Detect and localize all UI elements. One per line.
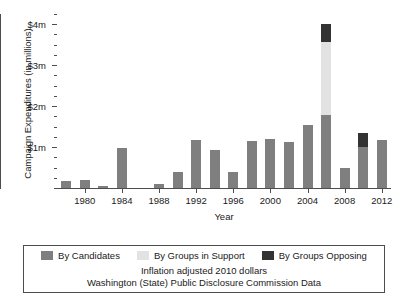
bar-group (228, 172, 238, 188)
bar-segment (61, 181, 71, 188)
bars-layer (57, 14, 391, 188)
y-axis-tick-label: $4m (28, 19, 46, 30)
x-axis-tick-label: 1992 (186, 195, 207, 206)
bar-segment (247, 141, 257, 188)
bar-segment (321, 42, 331, 115)
x-axis-tick-label: 1988 (148, 195, 169, 206)
x-axis-tick (345, 189, 346, 193)
bar-group (61, 181, 71, 188)
bar-segment (117, 148, 127, 188)
legend: By CandidatesBy Groups in SupportBy Grou… (24, 250, 384, 261)
bar-group (340, 168, 350, 188)
legend-item: By Groups Opposing (262, 250, 367, 261)
bar-group (303, 125, 313, 188)
bar-group (358, 133, 368, 188)
legend-and-caption-box: By CandidatesBy Groups in SupportBy Grou… (23, 245, 385, 293)
x-axis-tick-label: 2012 (371, 195, 392, 206)
caption-line-1: Inflation adjusted 2010 dollars (24, 265, 384, 277)
bar-segment (210, 150, 220, 188)
bar-segment (358, 133, 368, 147)
legend-item: By Candidates (41, 250, 120, 261)
bar-group (80, 180, 90, 188)
bar-group (247, 141, 257, 188)
legend-item-label: By Groups in Support (154, 250, 245, 261)
bar-group (154, 184, 164, 188)
bar-segment (303, 125, 313, 188)
bar-group (173, 172, 183, 188)
legend-item-label: By Candidates (58, 250, 120, 261)
bar-segment (377, 140, 387, 188)
x-axis-tick-label: 2000 (260, 195, 281, 206)
bar-segment (173, 172, 183, 188)
bar-group (284, 142, 294, 188)
legend-item: By Groups in Support (137, 250, 245, 261)
y-axis-tick-label: $3m (28, 60, 46, 71)
x-axis-tick (85, 189, 86, 193)
x-axis-tick (196, 189, 197, 193)
bar-group (321, 24, 331, 188)
x-axis-tick-label: 1996 (223, 195, 244, 206)
bar-segment (321, 24, 331, 42)
bar-segment (321, 115, 331, 188)
y-axis-line (0, 14, 1, 189)
x-axis-tick (233, 189, 234, 193)
bar-segment (340, 168, 350, 188)
x-axis-tick-label: 1980 (74, 195, 95, 206)
bar-segment (80, 180, 90, 188)
y-axis-tick-label: $2m (28, 101, 46, 112)
x-axis-tick-label: 2008 (334, 195, 355, 206)
legend-swatch-icon (41, 251, 53, 260)
caption: Inflation adjusted 2010 dollars Washingt… (24, 265, 384, 289)
bar-group (191, 140, 201, 188)
bar-group (117, 148, 127, 188)
campaign-expenditures-chart: Campaign Expenditures (in millions) $1m$… (0, 0, 395, 302)
bar-segment (228, 172, 238, 188)
x-axis-tick-label: 2004 (297, 195, 318, 206)
bar-segment (284, 142, 294, 188)
bar-group (265, 139, 275, 188)
bar-segment (358, 147, 368, 188)
x-axis-tick (122, 189, 123, 193)
caption-line-2: Washington (State) Public Disclosure Com… (24, 277, 384, 289)
bar-group (210, 150, 220, 188)
bar-segment (265, 139, 275, 188)
x-axis-tick (270, 189, 271, 193)
legend-swatch-icon (137, 251, 149, 260)
x-axis-title: Year (57, 211, 391, 222)
legend-swatch-icon (262, 251, 274, 260)
x-axis-tick (308, 189, 309, 193)
bar-segment (191, 140, 201, 188)
bar-group (377, 140, 387, 188)
bar-segment (154, 184, 164, 188)
x-axis-tick-label: 1984 (111, 195, 132, 206)
y-axis-tick-label: $1m (28, 142, 46, 153)
legend-item-label: By Groups Opposing (279, 250, 367, 261)
x-axis-tick (159, 189, 160, 193)
bar-group (98, 186, 108, 188)
x-axis-tick (382, 189, 383, 193)
bar-segment (98, 186, 108, 188)
